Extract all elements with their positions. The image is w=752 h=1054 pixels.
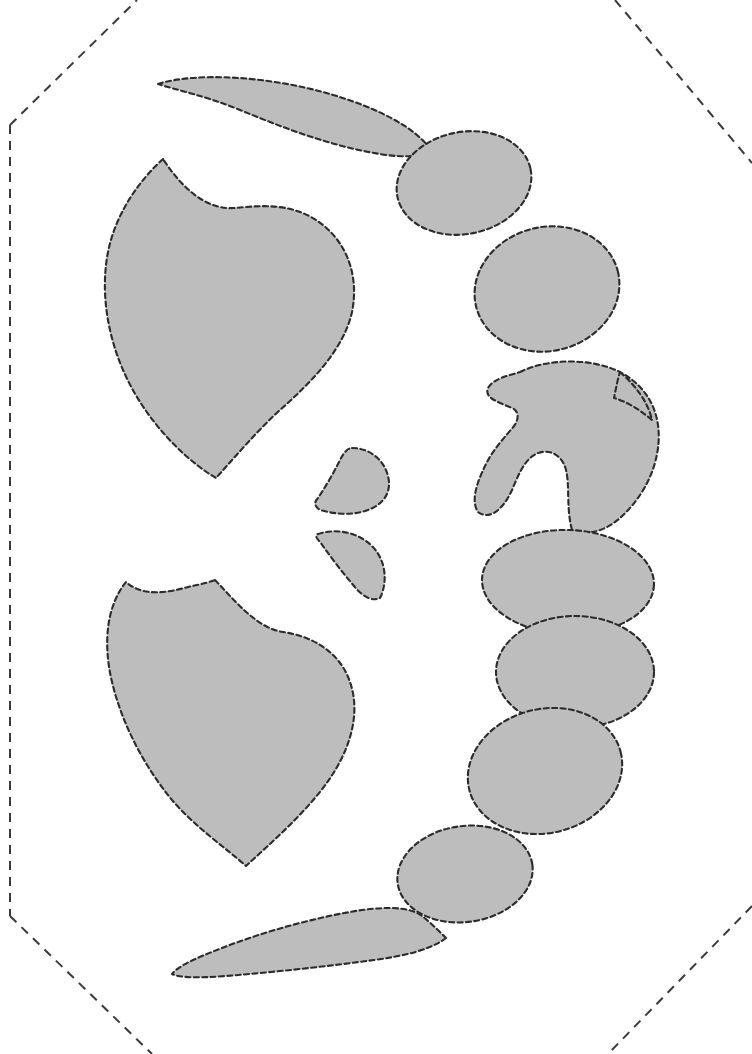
figure-canvas: Top curved crescent bladeLarge upper-lef…	[0, 0, 752, 1054]
shape-layout-figure: Top curved crescent bladeLarge upper-lef…	[0, 0, 752, 1054]
page-background	[0, 0, 752, 1054]
